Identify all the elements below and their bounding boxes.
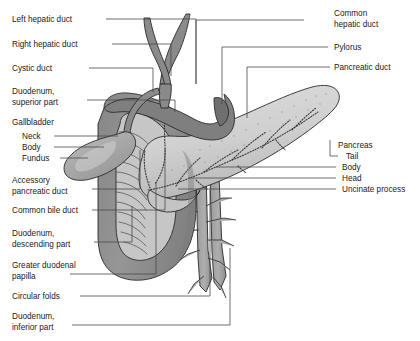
label-duodenum-superior-part: Duodenum,superior part: [12, 87, 59, 107]
label-pancreas-head: Head: [342, 174, 362, 183]
label-circular-folds: Circular folds: [12, 292, 60, 301]
label-line: Head: [342, 174, 362, 183]
label-line: Tail: [346, 152, 358, 161]
leader-cystic-duct: [89, 68, 153, 92]
figure-svg: Left hepatic ductRight hepatic ductCysti…: [0, 0, 420, 341]
label-line: Greater duodenal: [12, 261, 76, 270]
common-hepatic-duct-shape: [159, 84, 171, 108]
label-line: Common: [334, 9, 368, 18]
label-greater-duodenal-papilla: Greater duodenalpapilla: [12, 261, 76, 281]
label-line: Uncinate process: [342, 185, 405, 194]
label-line: Fundus: [22, 154, 49, 163]
label-line: Left hepatic duct: [12, 15, 73, 24]
label-common-hepatic-duct: Commonhepatic duct: [334, 9, 379, 29]
labels-right-group: Commonhepatic ductPylorusPancreatic duct…: [334, 9, 405, 194]
label-line: Right hepatic duct: [12, 40, 78, 49]
leader-pancreas-tail: [330, 140, 338, 156]
label-right-hepatic-duct: Right hepatic duct: [12, 40, 78, 49]
label-pancreas: Pancreas: [338, 141, 373, 150]
label-line: Neck: [22, 132, 42, 141]
label-pylorus: Pylorus: [334, 43, 361, 52]
label-line: Pylorus: [334, 43, 361, 52]
mesenteric-vessel-second: [210, 176, 226, 290]
label-left-hepatic-duct: Left hepatic duct: [12, 15, 73, 24]
right-hepatic-duct-shape: [144, 18, 171, 86]
label-pancreas-body: Body: [342, 163, 362, 172]
label-line: inferior part: [12, 323, 54, 332]
anatomical-diagram: Left hepatic ductRight hepatic ductCysti…: [0, 0, 420, 341]
label-line: Circular folds: [12, 292, 60, 301]
anatomy-artwork: [64, 14, 339, 298]
label-line: Gallbladder: [12, 118, 54, 127]
label-line: Pancreas: [338, 141, 373, 150]
leader-common-hepatic-duct: [196, 20, 304, 84]
label-line: Duodenum,: [12, 312, 54, 321]
label-line: Body: [342, 163, 362, 172]
label-line: descending part: [12, 240, 71, 249]
label-line: superior part: [12, 98, 59, 107]
label-line: Cystic duct: [12, 64, 53, 73]
label-line: Common bile duct: [12, 206, 79, 215]
label-pancreas-tail: Tail: [346, 152, 358, 161]
label-line: Duodenum,: [12, 87, 54, 96]
label-common-bile-duct: Common bile duct: [12, 206, 79, 215]
label-gallbladder-body: Body: [22, 143, 42, 152]
label-line: Duodenum,: [12, 229, 54, 238]
label-uncinate-process: Uncinate process: [342, 185, 405, 194]
label-line: pancreatic duct: [12, 187, 68, 196]
label-gallbladder-fundus: Fundus: [22, 154, 49, 163]
label-gallbladder-neck: Neck: [22, 132, 42, 141]
label-duodenum-inferior-part: Duodenum,inferior part: [12, 312, 54, 332]
label-accessory-pancreatic-duct: Accessorypancreatic duct: [12, 176, 68, 196]
label-line: Accessory: [12, 176, 51, 185]
label-pancreatic-duct: Pancreatic duct: [334, 63, 391, 72]
label-line: papilla: [12, 272, 36, 281]
label-gallbladder: Gallbladder: [12, 118, 54, 127]
label-line: Pancreatic duct: [334, 63, 391, 72]
label-line: Body: [22, 143, 42, 152]
label-line: hepatic duct: [334, 20, 379, 29]
label-cystic-duct: Cystic duct: [12, 64, 53, 73]
label-duodenum-descending-part: Duodenum,descending part: [12, 229, 71, 249]
